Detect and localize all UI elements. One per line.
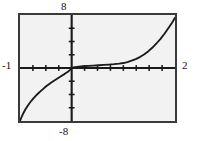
graph-figure: 8 -8 -1 2 xyxy=(0,0,197,141)
plot-frame xyxy=(18,13,177,123)
plot-canvas xyxy=(20,15,175,121)
x-min-label: -1 xyxy=(2,60,11,71)
y-max-label: 8 xyxy=(61,1,67,12)
y-min-label: -8 xyxy=(59,126,68,137)
x-max-label: 2 xyxy=(182,60,188,71)
